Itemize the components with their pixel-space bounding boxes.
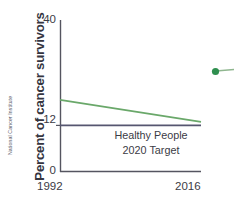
green-series-dot-icon [212, 68, 219, 75]
chart-figure: National Cancer Institute Percent of can… [0, 0, 234, 205]
target-annotation-line-1: Healthy People [104, 128, 198, 143]
trend-line-series [60, 100, 201, 122]
target-annotation-line-2: 2020 Target [104, 143, 198, 158]
plot-canvas [0, 0, 234, 205]
target-annotation: Healthy People 2020 Target [104, 128, 198, 157]
